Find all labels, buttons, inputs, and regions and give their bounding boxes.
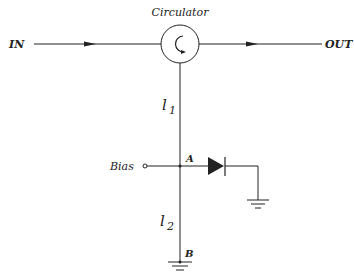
l1-subscript: 1 bbox=[169, 104, 176, 117]
diode-icon bbox=[208, 157, 225, 176]
out-label: OUT bbox=[325, 38, 353, 51]
in-label: IN bbox=[8, 38, 25, 51]
circulator-label: Circulator bbox=[152, 6, 210, 19]
l1-label: l bbox=[162, 96, 167, 114]
circulator-icon bbox=[161, 25, 199, 63]
bias-label: Bias bbox=[109, 160, 134, 173]
input-arrow-icon bbox=[84, 42, 96, 47]
diode-ground-lead bbox=[225, 166, 258, 200]
bias-terminal bbox=[143, 164, 147, 168]
l2-subscript: 2 bbox=[166, 220, 174, 233]
node-b-label: B bbox=[184, 248, 193, 259]
output-arrow-icon bbox=[246, 42, 258, 47]
l2-label: l bbox=[160, 212, 165, 230]
ground-icon bbox=[247, 200, 269, 208]
circuit-diagram: Circulator IN OUT l 1 l 2 Bias A B bbox=[0, 0, 354, 280]
node-a-label: A bbox=[185, 153, 194, 164]
